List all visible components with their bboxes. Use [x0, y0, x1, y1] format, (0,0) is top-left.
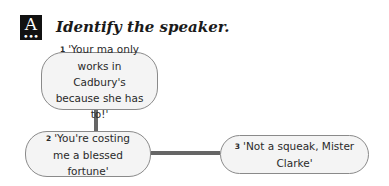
- ellipsis-icon: •••: [20, 33, 42, 39]
- speech-bubble-1: 1'Your ma only works in Cadbury's becaus…: [41, 52, 158, 110]
- connector-2-3: [151, 151, 220, 155]
- activity-a-badge: A •••: [20, 15, 42, 40]
- bubble-number: 2: [46, 134, 51, 143]
- bubble-number: 3: [235, 142, 240, 151]
- speech-bubble-3: 3'Not a squeak, Mister Clarke': [220, 135, 369, 174]
- bubble-quote: 'You're costing me a blessed fortune': [53, 132, 130, 177]
- bubble-quote: 'Your ma only works in Cadbury's because…: [56, 43, 144, 120]
- bubble-number: 1: [60, 45, 65, 54]
- speech-bubble-2: 2'You're costing me a blessed fortune': [25, 131, 151, 177]
- task-heading: Identify the speaker.: [56, 18, 229, 36]
- bubble-quote: 'Not a squeak, Mister Clarke': [243, 140, 354, 169]
